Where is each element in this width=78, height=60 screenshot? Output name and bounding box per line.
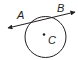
geometry-diagram: A B C (0, 0, 78, 60)
label-a: A (16, 9, 24, 21)
center-point (43, 33, 46, 36)
label-b: B (57, 2, 64, 14)
label-c: C (48, 34, 56, 46)
